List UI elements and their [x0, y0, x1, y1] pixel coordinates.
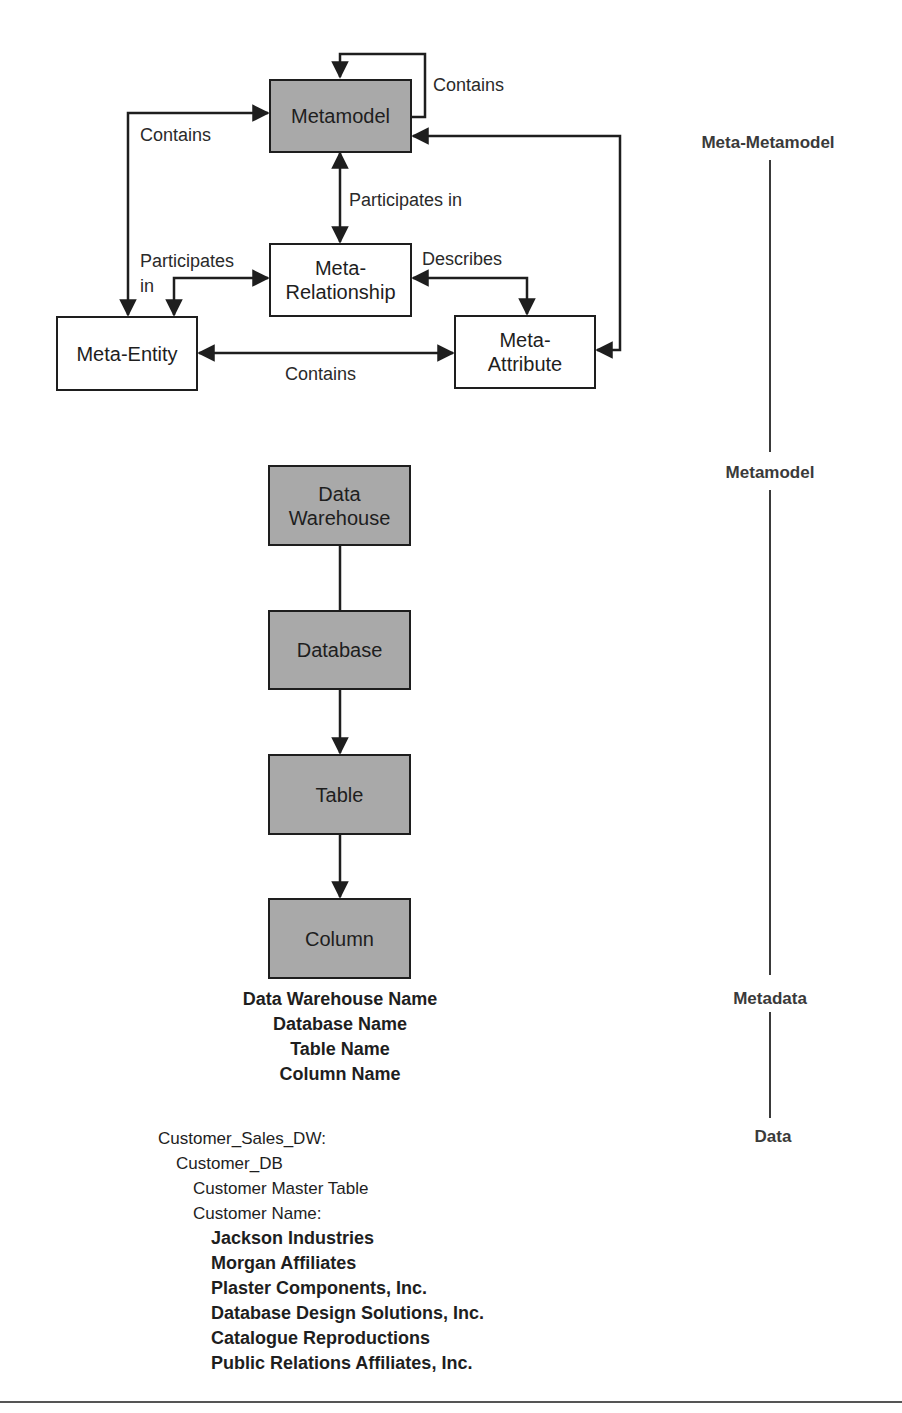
level-metadata: Metadata — [733, 989, 807, 1009]
data-value: Public Relations Affiliates, Inc. — [158, 1351, 484, 1376]
column-box: Column — [268, 898, 411, 979]
box-label: Meta- Attribute — [488, 328, 562, 376]
column-instance: Customer Name: — [158, 1201, 484, 1226]
data-value: Jackson Industries — [158, 1226, 484, 1251]
table-box: Table — [268, 754, 411, 835]
box-label: Data Warehouse — [289, 482, 391, 530]
box-label: Meta- Relationship — [285, 256, 395, 304]
participates-in-vertical-label: Participates in — [349, 189, 462, 211]
meta-entity-box: Meta-Entity — [56, 316, 198, 391]
participates-in-left-label-1: Participates — [140, 250, 234, 272]
data-example: Customer_Sales_DW: Customer_DB Customer … — [158, 1126, 484, 1376]
level-meta-metamodel: Meta-Metamodel — [701, 133, 834, 153]
metadata-name: Database Name — [200, 1012, 480, 1037]
self-contains-label: Contains — [433, 74, 504, 96]
data-value: Morgan Affiliates — [158, 1251, 484, 1276]
data-warehouse-box: Data Warehouse — [268, 465, 411, 546]
box-label: Meta-Entity — [76, 342, 177, 366]
describes-label: Describes — [422, 248, 502, 270]
metadata-name: Table Name — [200, 1037, 480, 1062]
database-box: Database — [268, 610, 411, 690]
data-value: Catalogue Reproductions — [158, 1326, 484, 1351]
participates-in-left-label-2: in — [140, 275, 154, 297]
box-label: Table — [316, 783, 364, 807]
left-contains-label: Contains — [140, 124, 211, 146]
level-data: Data — [755, 1127, 792, 1147]
level-metamodel: Metamodel — [726, 463, 815, 483]
meta-relationship-box: Meta- Relationship — [269, 243, 412, 317]
data-value: Plaster Components, Inc. — [158, 1276, 484, 1301]
metadata-names: Data Warehouse Name Database Name Table … — [200, 987, 480, 1087]
metamodel-box: Metamodel — [269, 79, 412, 153]
metadata-name: Column Name — [200, 1062, 480, 1087]
bottom-contains-label: Contains — [285, 363, 356, 385]
data-value: Database Design Solutions, Inc. — [158, 1301, 484, 1326]
metamodel-diagram: Metamodel Meta- Relationship Meta-Entity… — [0, 0, 902, 1413]
warehouse-instance: Customer_Sales_DW: — [158, 1126, 484, 1151]
database-instance: Customer_DB — [158, 1151, 484, 1176]
metadata-name: Data Warehouse Name — [200, 987, 480, 1012]
box-label: Column — [305, 927, 374, 951]
bottom-rule — [0, 1401, 902, 1403]
box-label: Metamodel — [291, 104, 390, 128]
table-instance: Customer Master Table — [158, 1176, 484, 1201]
box-label: Database — [297, 638, 383, 662]
meta-attribute-box: Meta- Attribute — [454, 315, 596, 389]
